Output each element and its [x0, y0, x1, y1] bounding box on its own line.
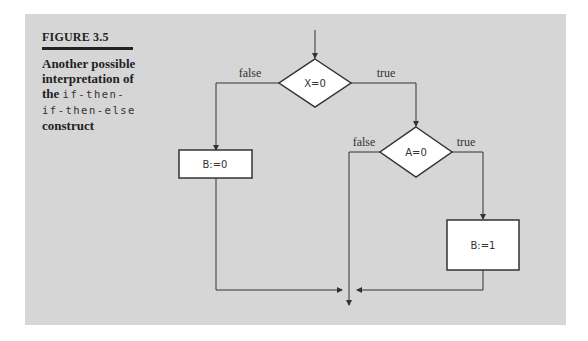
- decision-a-false-label: false: [353, 135, 376, 149]
- decision-a-text: A=0: [405, 147, 427, 158]
- flowchart: X=0 false true A=0 false true B:=0 B:=1: [0, 0, 588, 341]
- decision-x-text: X=0: [304, 78, 326, 89]
- decision-a-true-label: true: [457, 135, 476, 149]
- decision-x-false-label: false: [239, 66, 262, 80]
- box-b-zero-text: B:=0: [203, 159, 228, 170]
- decision-x-true-label: true: [377, 66, 396, 80]
- box-b-one-text: B:=1: [471, 240, 496, 251]
